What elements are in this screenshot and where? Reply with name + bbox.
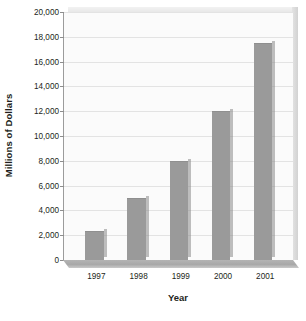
bar-chart-figure: Millions of Dollars 20,00018,00016,00014… [0,0,306,321]
y-axis-tick-labels: 20,00018,00016,00014,00012,00010,0008,00… [18,12,63,264]
y-axis-tick-label: 12,000 [34,107,59,116]
y-axis-tick-label: 16,000 [34,57,59,66]
y-axis-tick-label: 14,000 [34,82,59,91]
bars-layer [64,12,294,260]
y-axis-tick-label: 8,000 [39,156,60,165]
bar-1999 [170,161,189,260]
y-axis-tick-label: 18,000 [34,32,59,41]
plot-floor [63,260,299,268]
bar-slot [127,12,146,260]
bar-1997 [85,231,104,260]
bar-slot [85,12,104,260]
y-axis-tick-label: 2,000 [39,231,60,240]
x-axis-tick-label: 1997 [87,272,105,281]
x-axis-tick-label: 2001 [256,272,274,281]
y-axis-title-label: Millions of Dollars [4,93,15,177]
y-axis-tick-label: 6,000 [39,181,60,190]
plot-shell [63,12,301,264]
y-axis-tick-label: 10,000 [34,132,59,141]
y-axis-tick-label: 0 [54,256,59,265]
bar-slot [170,12,189,260]
bar-slot [212,12,231,260]
x-axis-tick-label: 1998 [129,272,147,281]
x-axis-tick-label: 1999 [172,272,190,281]
y-axis-title: Millions of Dollars [0,0,18,270]
y-axis-tick-label: 4,000 [39,206,60,215]
bar-1998 [127,198,146,260]
plot-area [63,12,293,260]
bar-2000 [212,111,231,260]
x-axis-title: Year [63,292,293,303]
x-axis-tick-label: 2000 [214,272,232,281]
x-axis-tick-labels: 19971998199920002001 [63,272,299,286]
bar-slot [254,12,273,260]
y-axis-tick-label: 20,000 [34,8,59,17]
bar-2001 [254,43,273,260]
